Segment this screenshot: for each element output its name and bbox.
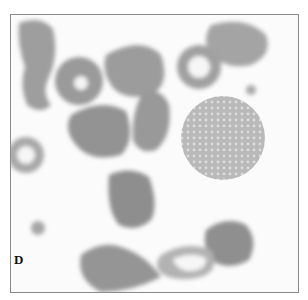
red-blood-cell	[68, 105, 130, 158]
red-blood-cell	[104, 45, 164, 97]
panel-label: D	[14, 252, 23, 268]
platelet	[31, 221, 45, 235]
red-blood-cell	[19, 20, 56, 110]
micrograph-image	[11, 15, 298, 292]
granular-cell	[181, 96, 265, 180]
red-blood-cell	[108, 170, 154, 228]
micrograph-panel	[10, 14, 299, 293]
red-blood-cell	[80, 245, 161, 292]
red-blood-cell	[133, 92, 170, 152]
